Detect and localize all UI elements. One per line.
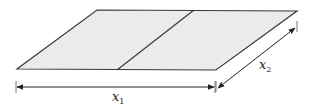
- plate-surface: [17, 10, 297, 70]
- x1-label: x1: [112, 89, 124, 104]
- plate-diagram: x1 x2: [0, 0, 313, 104]
- x2-label: x2: [259, 57, 271, 74]
